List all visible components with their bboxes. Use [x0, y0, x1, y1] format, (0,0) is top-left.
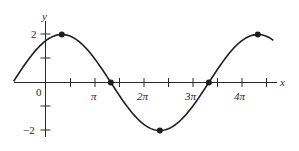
point-zero: [206, 80, 212, 86]
chart: y x 0 π 2π 3π 4π 2 −2: [0, 0, 299, 151]
point-maximum: [59, 32, 65, 38]
x-tick-label-3pi: 3π: [184, 90, 197, 102]
y-axis-label: y: [41, 10, 47, 22]
x-axis-label: x: [279, 76, 285, 88]
x-tick-label-pi: π: [91, 90, 97, 102]
x-tick-label-2pi: 2π: [137, 90, 149, 102]
point-minimum: [157, 128, 163, 134]
origin-label: 0: [36, 86, 42, 98]
x-tick-label-4pi: 4π: [234, 90, 246, 102]
y-tick-label-2: 2: [31, 28, 37, 40]
y-tick-label-neg2: −2: [23, 124, 35, 136]
point-maximum: [255, 32, 261, 38]
point-zero: [108, 80, 114, 86]
